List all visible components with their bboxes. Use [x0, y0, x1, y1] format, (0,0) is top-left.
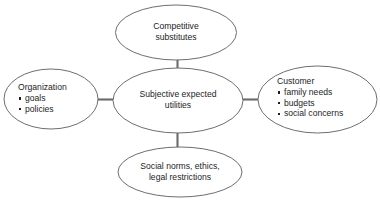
diagram-canvas: Competitive substitutes Subjective expec…	[0, 0, 380, 203]
node-social-norms[interactable]	[118, 147, 242, 197]
diagram-vector-layer	[0, 0, 380, 203]
node-organization[interactable]	[4, 69, 98, 129]
node-customer[interactable]	[258, 66, 377, 133]
node-subjective-expected-utilities[interactable]	[113, 68, 243, 133]
node-competitive-substitutes[interactable]	[116, 5, 237, 60]
